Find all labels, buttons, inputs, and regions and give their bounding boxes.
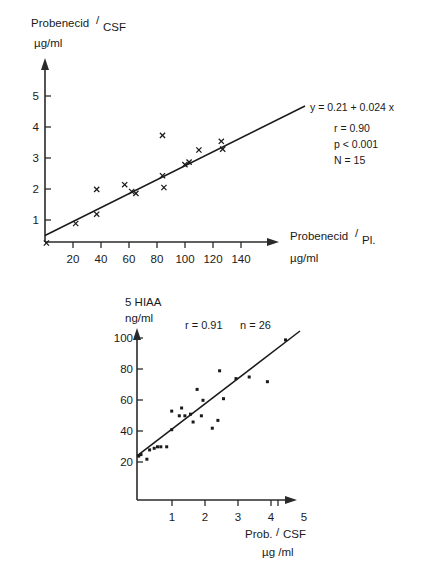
top-chart-equation-annotation: y = 0.21 + 0.024 x bbox=[310, 101, 395, 113]
data-point bbox=[170, 410, 173, 413]
top-chart-ylabel-slash: / bbox=[96, 14, 100, 26]
data-point bbox=[159, 445, 162, 448]
data-point bbox=[170, 428, 173, 431]
bottom-chart-xlabel-numerator: Prob. bbox=[245, 528, 273, 540]
bottom-chart: 5 HIAA ng/ml 100 80 60 40 20 bbox=[114, 296, 307, 558]
data-point bbox=[189, 413, 192, 416]
bottom-chart-y-ticks bbox=[137, 338, 143, 462]
top-chart-ytick-3: 3 bbox=[33, 152, 39, 164]
bottom-chart-ytick-40: 40 bbox=[120, 425, 133, 437]
data-point bbox=[192, 421, 195, 424]
data-point bbox=[73, 221, 78, 226]
bottom-chart-regression-line bbox=[137, 331, 300, 456]
data-point bbox=[222, 397, 225, 400]
data-point bbox=[44, 240, 49, 245]
bottom-chart-data-points bbox=[137, 338, 287, 460]
data-point bbox=[153, 447, 156, 450]
bottom-chart-ytick-80: 80 bbox=[120, 363, 133, 375]
bottom-chart-ylabel: 5 HIAA bbox=[125, 296, 162, 308]
top-chart-ylabel-unit: µg/ml bbox=[34, 37, 62, 49]
scatter-plots-svg: Probenecid / CSF µg/ml 5 4 3 2 1 bbox=[0, 0, 447, 573]
data-point bbox=[219, 139, 224, 144]
bottom-chart-xtick-2: 2 bbox=[202, 511, 208, 523]
top-chart-ylabel-denominator: CSF bbox=[103, 21, 126, 33]
top-chart-xlabel-denominator: Pl. bbox=[362, 234, 375, 246]
bottom-chart-xlabel-denominator: CSF bbox=[283, 528, 306, 540]
top-chart-ylabel-numerator: Probenecid bbox=[31, 17, 89, 29]
data-point bbox=[148, 448, 151, 451]
bottom-chart-ylabel-unit: ng/ml bbox=[125, 312, 153, 324]
data-point bbox=[145, 458, 148, 461]
data-point bbox=[196, 147, 201, 152]
top-chart-xlabel-numerator: Probenecid bbox=[290, 230, 348, 242]
data-point bbox=[140, 453, 143, 456]
bottom-chart-xlabel-slash: / bbox=[276, 526, 280, 538]
data-point bbox=[122, 182, 127, 187]
top-chart-y-axis-arrow bbox=[41, 58, 49, 70]
bottom-chart-xtick-1: 1 bbox=[169, 511, 175, 523]
bottom-chart-ytick-100: 100 bbox=[114, 332, 133, 344]
top-chart-r-annotation: r = 0.90 bbox=[334, 122, 370, 134]
data-point bbox=[218, 369, 221, 372]
top-chart-n-annotation: N = 15 bbox=[334, 154, 365, 166]
top-chart-xtick-100: 100 bbox=[175, 253, 194, 265]
top-chart-regression-line bbox=[45, 106, 305, 236]
data-point bbox=[183, 414, 186, 417]
top-chart-xlabel-slash: / bbox=[355, 227, 359, 239]
data-point bbox=[200, 414, 203, 417]
data-point bbox=[178, 414, 181, 417]
data-point bbox=[284, 338, 287, 341]
figure-container: Probenecid / CSF µg/ml 5 4 3 2 1 bbox=[0, 0, 447, 573]
bottom-chart-ytick-20: 20 bbox=[120, 456, 133, 468]
data-point bbox=[196, 388, 199, 391]
top-chart-y-ticks bbox=[45, 96, 51, 220]
data-point bbox=[156, 445, 159, 448]
bottom-chart-n-annotation: n = 26 bbox=[240, 319, 271, 331]
data-point bbox=[266, 380, 269, 383]
data-point bbox=[211, 427, 214, 430]
data-point bbox=[94, 187, 99, 192]
bottom-chart-xlabel-unit: µg /ml bbox=[262, 546, 294, 558]
data-point bbox=[180, 407, 183, 410]
top-chart-ytick-2: 2 bbox=[33, 183, 39, 195]
top-chart-ytick-1: 1 bbox=[33, 214, 39, 226]
top-chart-data-points bbox=[44, 133, 226, 246]
data-point bbox=[248, 376, 251, 379]
top-chart-xtick-80: 80 bbox=[151, 253, 164, 265]
top-chart-p-annotation: p < 0.001 bbox=[334, 138, 378, 150]
top-chart-xtick-120: 120 bbox=[203, 253, 222, 265]
bottom-chart-x-ticks bbox=[172, 500, 278, 506]
top-chart-ytick-4: 4 bbox=[33, 121, 40, 133]
data-point bbox=[235, 377, 238, 380]
data-point bbox=[165, 445, 168, 448]
top-chart-xlabel-unit: µg/ml bbox=[290, 252, 318, 264]
data-point bbox=[202, 399, 205, 402]
top-chart-x-axis-arrow bbox=[267, 238, 279, 246]
bottom-chart-r-annotation: r = 0.91 bbox=[185, 319, 223, 331]
top-chart: Probenecid / CSF µg/ml 5 4 3 2 1 bbox=[31, 14, 395, 265]
bottom-chart-xtick-5: 5 bbox=[301, 511, 307, 523]
top-chart-xtick-140: 140 bbox=[231, 253, 250, 265]
bottom-chart-xtick-3: 3 bbox=[235, 511, 241, 523]
bottom-chart-x-axis-arrow bbox=[285, 496, 297, 504]
top-chart-xtick-40: 40 bbox=[95, 253, 108, 265]
top-chart-xtick-20: 20 bbox=[67, 253, 80, 265]
top-chart-xtick-60: 60 bbox=[123, 253, 136, 265]
data-point bbox=[94, 212, 99, 217]
data-point bbox=[216, 419, 219, 422]
data-point bbox=[160, 133, 165, 138]
bottom-chart-xtick-4: 4 bbox=[268, 511, 275, 523]
data-point bbox=[161, 185, 166, 190]
top-chart-x-ticks bbox=[73, 242, 241, 248]
top-chart-ytick-5: 5 bbox=[33, 90, 39, 102]
bottom-chart-ytick-60: 60 bbox=[120, 394, 133, 406]
